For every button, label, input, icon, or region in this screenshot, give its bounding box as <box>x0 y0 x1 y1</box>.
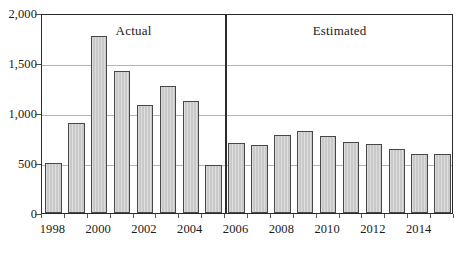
x-axis-tick-label: 2006 <box>223 222 248 237</box>
bar <box>411 154 427 213</box>
x-axis-tick-label: 2008 <box>269 222 294 237</box>
x-axis-tick-label: 2012 <box>360 222 385 237</box>
bar <box>183 101 199 213</box>
x-axis-tick <box>178 214 179 218</box>
actual-estimated-divider <box>225 15 226 213</box>
bar <box>68 123 84 213</box>
annotation-actual: Actual <box>116 23 152 39</box>
bar <box>434 154 450 213</box>
x-axis-tick <box>155 214 156 218</box>
annotation-estimated: Estimated <box>313 23 367 39</box>
bar <box>251 145 267 214</box>
y-axis-labels: 05001,0001,5002,000 <box>0 0 37 260</box>
x-axis-tick <box>247 214 248 218</box>
x-axis-tick <box>41 214 42 218</box>
x-axis-tick <box>339 214 340 218</box>
y-axis-tick-label: 1,500 <box>1 58 37 71</box>
x-axis-tick <box>110 214 111 218</box>
bar <box>91 36 107 214</box>
y-axis-tick-label: 1,000 <box>1 108 37 121</box>
bar <box>228 143 244 213</box>
x-axis-tick-label: 1998 <box>40 222 65 237</box>
x-axis-tick <box>293 214 294 218</box>
x-axis-tick-marks <box>41 214 453 219</box>
bar-chart: 05001,0001,5002,000 Actual Estimated 199… <box>0 0 461 260</box>
x-axis-tick <box>430 214 431 218</box>
x-axis-tick-label: 2004 <box>177 222 202 237</box>
bar <box>366 144 382 213</box>
x-axis-tick <box>316 214 317 218</box>
x-axis-tick <box>270 214 271 218</box>
x-axis-tick <box>64 214 65 218</box>
x-axis-tick <box>384 214 385 218</box>
x-axis-tick-label: 2000 <box>86 222 111 237</box>
x-axis-tick-label: 2014 <box>406 222 431 237</box>
x-axis-tick <box>224 214 225 218</box>
x-axis-tick <box>361 214 362 218</box>
bar <box>389 149 405 213</box>
bar <box>320 136 336 214</box>
x-axis-tick <box>87 214 88 218</box>
y-axis-tick-label: 500 <box>1 158 37 171</box>
x-axis-tick <box>201 214 202 218</box>
bar <box>205 165 221 213</box>
bar <box>297 131 313 213</box>
bar <box>274 135 290 213</box>
x-axis-tick-label: 2002 <box>131 222 156 237</box>
y-axis-tick-label: 2,000 <box>1 8 37 21</box>
x-axis-tick <box>453 214 454 218</box>
y-axis-tick-label: 0 <box>1 208 37 221</box>
x-axis-tick-label: 2010 <box>314 222 339 237</box>
x-axis-tick <box>133 214 134 218</box>
bar <box>137 105 153 214</box>
x-axis-tick <box>407 214 408 218</box>
bar <box>45 163 61 213</box>
x-axis-labels: 199820002002200420062008201020122014 <box>41 222 453 244</box>
bar <box>160 86 176 213</box>
bar <box>343 142 359 213</box>
plot-area: Actual Estimated <box>41 14 453 214</box>
bars <box>42 15 452 213</box>
bar <box>114 71 130 214</box>
